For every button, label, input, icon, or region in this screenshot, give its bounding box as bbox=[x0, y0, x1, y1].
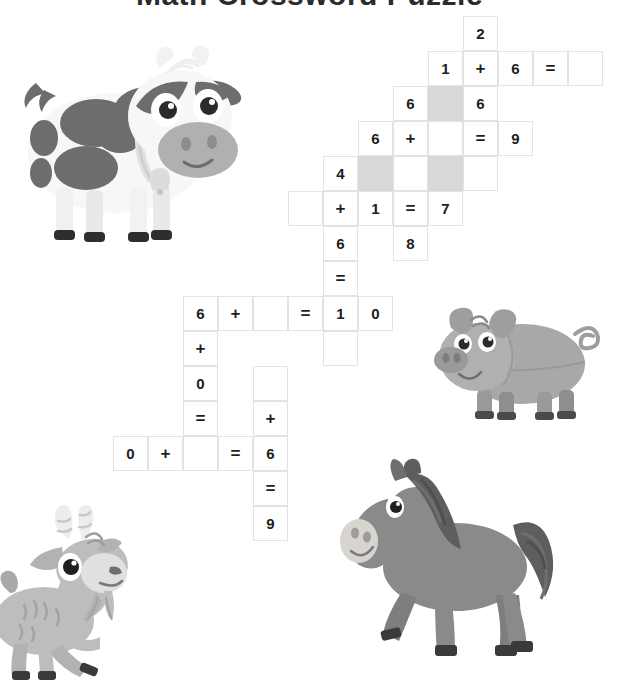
grid-cell-r5-c8[interactable]: = bbox=[393, 191, 428, 226]
grid-cell-r3-c9[interactable] bbox=[428, 121, 463, 156]
grid-cell-r4-c10[interactable] bbox=[463, 156, 498, 191]
cow-illustration bbox=[8, 38, 253, 253]
grid-cell-r5-c6[interactable]: + bbox=[323, 191, 358, 226]
grid-cell-r1-c10[interactable]: + bbox=[463, 51, 498, 86]
horse-svg bbox=[335, 455, 560, 660]
grid-cell-r8-c4[interactable] bbox=[253, 296, 288, 331]
grid-cell-r1-c9[interactable]: 1 bbox=[428, 51, 463, 86]
grid-cell-r10-c4[interactable] bbox=[253, 366, 288, 401]
grid-cell-r2-c9 bbox=[428, 86, 463, 121]
grid-cell-r6-c6[interactable]: 6 bbox=[323, 226, 358, 261]
grid-cell-r12-c3[interactable]: = bbox=[218, 436, 253, 471]
grid-cell-r12-c0[interactable]: 0 bbox=[113, 436, 148, 471]
grid-cell-r9-c6[interactable] bbox=[323, 331, 358, 366]
grid-cell-r2-c10[interactable]: 6 bbox=[463, 86, 498, 121]
grid-cell-r3-c10[interactable]: = bbox=[463, 121, 498, 156]
grid-cell-r1-c11[interactable]: 6 bbox=[498, 51, 533, 86]
cow-svg bbox=[8, 38, 253, 253]
grid-cell-r4-c9 bbox=[428, 156, 463, 191]
goat-illustration bbox=[0, 505, 160, 682]
pig-svg bbox=[425, 302, 615, 432]
goat-svg bbox=[0, 505, 160, 682]
grid-cell-r12-c4[interactable]: 6 bbox=[253, 436, 288, 471]
grid-cell-r5-c7[interactable]: 1 bbox=[358, 191, 393, 226]
grid-cell-r3-c8[interactable]: + bbox=[393, 121, 428, 156]
grid-cell-r12-c1[interactable]: + bbox=[148, 436, 183, 471]
puzzle-canvas: Math Crossword Puzzle bbox=[0, 0, 619, 682]
grid-cell-r1-c12[interactable]: = bbox=[533, 51, 568, 86]
grid-cell-r9-c2[interactable]: + bbox=[183, 331, 218, 366]
grid-cell-r0-c10[interactable]: 2 bbox=[463, 16, 498, 51]
grid-cell-r8-c2[interactable]: 6 bbox=[183, 296, 218, 331]
grid-cell-r2-c8[interactable]: 6 bbox=[393, 86, 428, 121]
pig-illustration bbox=[425, 302, 615, 432]
grid-cell-r14-c4[interactable]: 9 bbox=[253, 506, 288, 541]
grid-cell-r7-c6[interactable]: = bbox=[323, 261, 358, 296]
grid-cell-r6-c8[interactable]: 8 bbox=[393, 226, 428, 261]
grid-cell-r3-c11[interactable]: 9 bbox=[498, 121, 533, 156]
grid-cell-r11-c4[interactable]: + bbox=[253, 401, 288, 436]
grid-cell-r8-c5[interactable]: = bbox=[288, 296, 323, 331]
grid-cell-r3-c7[interactable]: 6 bbox=[358, 121, 393, 156]
grid-cell-r8-c7[interactable]: 0 bbox=[358, 296, 393, 331]
grid-cell-r4-c7 bbox=[358, 156, 393, 191]
grid-cell-r8-c6[interactable]: 1 bbox=[323, 296, 358, 331]
grid-cell-r8-c3[interactable]: + bbox=[218, 296, 253, 331]
grid-cell-r4-c6[interactable]: 4 bbox=[323, 156, 358, 191]
page-title: Math Crossword Puzzle bbox=[0, 0, 619, 12]
grid-cell-r4-c8[interactable] bbox=[393, 156, 428, 191]
grid-cell-r13-c4[interactable]: = bbox=[253, 471, 288, 506]
grid-cell-r5-c5[interactable] bbox=[288, 191, 323, 226]
horse-illustration bbox=[335, 455, 560, 660]
grid-cell-r11-c2[interactable]: = bbox=[183, 401, 218, 436]
grid-cell-r5-c9[interactable]: 7 bbox=[428, 191, 463, 226]
grid-cell-r1-c13[interactable] bbox=[568, 51, 603, 86]
grid-cell-r10-c2[interactable]: 0 bbox=[183, 366, 218, 401]
grid-cell-r12-c2[interactable] bbox=[183, 436, 218, 471]
